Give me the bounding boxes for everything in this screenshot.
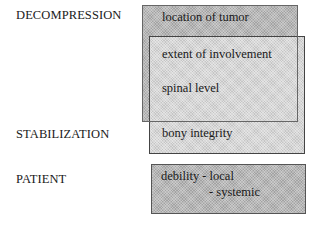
label-patient: PATIENT [16, 172, 66, 187]
patient-box: debility - local - systemic [151, 164, 306, 214]
label-decompression: DECOMPRESSION [16, 8, 122, 23]
decompression-outline [142, 5, 298, 122]
patient-text-systemic: - systemic [209, 185, 260, 200]
stabilization-box-text: bony integrity [162, 126, 232, 141]
patient-text-local: debility - local [161, 169, 234, 184]
label-stabilization: STABILIZATION [16, 127, 109, 142]
